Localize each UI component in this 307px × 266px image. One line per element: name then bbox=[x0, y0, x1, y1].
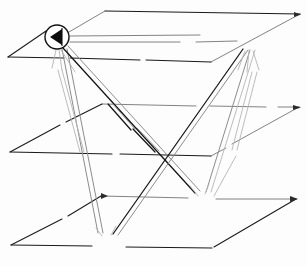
nodes-group bbox=[45, 25, 69, 49]
diagram-canvas: Three-layer network overlay diagram Hand… bbox=[0, 0, 307, 266]
arrow-tip-top-right bbox=[294, 12, 301, 17]
link-node-b-drop-3 bbox=[253, 51, 259, 70]
node-top-left[interactable] bbox=[45, 25, 69, 49]
arrow-tip-bottom-right bbox=[290, 196, 298, 202]
plane-bottom[interactable] bbox=[11, 193, 298, 249]
arrow-tip-middle-right bbox=[293, 105, 301, 110]
plane-middle[interactable] bbox=[10, 104, 301, 156]
link-node-c-spur-2 bbox=[205, 184, 209, 194]
plane-bottom-surface bbox=[11, 196, 297, 249]
link-ghost-rail-right-3 bbox=[214, 156, 236, 196]
diagram-svg bbox=[0, 0, 307, 266]
